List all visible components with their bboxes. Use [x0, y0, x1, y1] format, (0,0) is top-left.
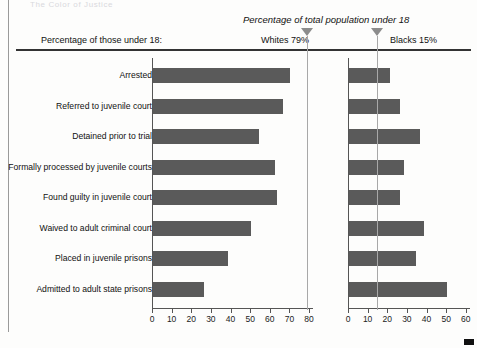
- axis-tick-label: 60: [456, 314, 476, 324]
- axis-tick-label: 40: [417, 314, 437, 324]
- bar: [153, 129, 259, 144]
- whites-marker-line: [307, 36, 308, 310]
- axis-tick: [309, 309, 310, 313]
- axis-tick: [368, 309, 369, 313]
- corner-mark-border: [463, 338, 475, 346]
- bar: [349, 129, 420, 144]
- value-axis-line: [152, 58, 153, 308]
- bar: [153, 282, 204, 297]
- axis-tick: [387, 309, 388, 313]
- right-chart-panel: 0102030405060: [348, 58, 476, 310]
- bar: [349, 282, 447, 297]
- bar: [153, 160, 275, 175]
- axis-tick-label: 0: [338, 314, 358, 324]
- blacks-marker-line: [377, 36, 378, 310]
- axis-tick: [211, 309, 212, 313]
- axis-tick: [231, 309, 232, 313]
- bar: [153, 190, 277, 205]
- chart-title: Percentage of total population under 18: [243, 14, 409, 25]
- axis-tick-label: 50: [240, 314, 260, 324]
- axis-tick-label: 50: [436, 314, 456, 324]
- blacks-marker-label: Blacks 15%: [390, 35, 437, 45]
- bar: [153, 221, 251, 236]
- axis-tick: [191, 309, 192, 313]
- axis-tick-label: 30: [201, 314, 221, 324]
- bar: [153, 251, 228, 266]
- axis-tick-label: 10: [162, 314, 182, 324]
- category-axis-line: [348, 308, 470, 309]
- chart-page: The Color of Justice Percentage of total…: [0, 0, 477, 348]
- axis-tick: [172, 309, 173, 313]
- bar: [153, 99, 283, 114]
- axis-tick: [250, 309, 251, 313]
- whites-marker-triangle-icon: [301, 28, 313, 36]
- category-label: Placed in juvenile prisons: [55, 253, 152, 263]
- blacks-marker-triangle-icon: [371, 28, 383, 36]
- cut-off-header-text: The Color of Justice: [30, 0, 330, 9]
- axis-tick-label: 20: [181, 314, 201, 324]
- bar: [153, 68, 290, 83]
- axis-tick: [289, 309, 290, 313]
- header-rule: [16, 49, 471, 51]
- category-label: Referred to juvenile court: [56, 101, 152, 111]
- whites-marker-label: Whites 79%: [261, 35, 309, 45]
- bar: [349, 99, 400, 114]
- axis-tick-label: 30: [397, 314, 417, 324]
- axis-tick: [270, 309, 271, 313]
- left-chart-panel: 01020304050607080: [152, 58, 327, 310]
- axis-tick: [407, 309, 408, 313]
- axis-tick-label: 10: [358, 314, 378, 324]
- axis-tick: [348, 309, 349, 313]
- category-label: Detained prior to trial: [72, 131, 152, 141]
- bar: [349, 221, 424, 236]
- axis-tick-label: 0: [142, 314, 162, 324]
- category-label: Admitted to adult state prisons: [36, 284, 152, 294]
- category-label: Formally processed by juvenile courts: [8, 162, 152, 172]
- axis-tick: [427, 309, 428, 313]
- axis-tick: [466, 309, 467, 313]
- category-label: Waived to adult criminal court: [40, 223, 152, 233]
- value-axis-line: [348, 58, 349, 308]
- bar: [349, 68, 390, 83]
- axis-tick-label: 70: [279, 314, 299, 324]
- category-label: Found guilty in juvenile court: [43, 192, 152, 202]
- category-label-column: ArrestedReferred to juvenile courtDetain…: [0, 58, 152, 310]
- axis-tick-label: 20: [377, 314, 397, 324]
- axis-tick-label: 40: [221, 314, 241, 324]
- category-label: Arrested: [120, 70, 152, 80]
- percentage-of-those-under-18-label: Percentage of those under 18:: [41, 35, 162, 45]
- axis-tick: [152, 309, 153, 313]
- axis-tick: [446, 309, 447, 313]
- bar: [349, 251, 416, 266]
- axis-tick-label: 60: [260, 314, 280, 324]
- axis-tick-label: 80: [299, 314, 319, 324]
- bar: [349, 190, 400, 205]
